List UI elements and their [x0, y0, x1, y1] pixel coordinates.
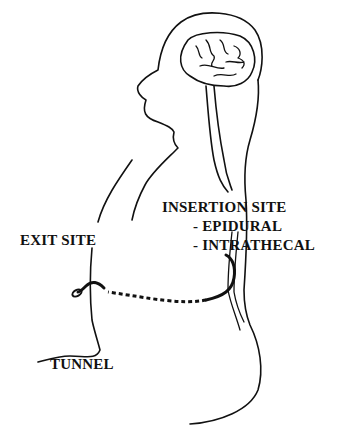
intrathecal-label: - INTRATHECAL: [193, 236, 315, 254]
head-front-outline: [132, 13, 262, 220]
chest-outline: [98, 160, 132, 222]
epidural-label: - EPIDURAL: [193, 217, 282, 235]
catheter-insertion-segment: [206, 255, 235, 300]
catheter-diagram: INSERTION SITE - EPIDURAL - INTRATHECAL …: [0, 0, 359, 431]
exit-site-label: EXIT SITE: [20, 231, 96, 249]
brain-folds: [196, 40, 244, 76]
catheter-tunnel-segment: [108, 292, 206, 302]
brain-outline: [181, 33, 255, 87]
insertion-site-label: INSERTION SITE: [162, 198, 286, 216]
front-torso-outline: [38, 248, 100, 362]
spinal-cord-right: [214, 86, 232, 190]
tunnel-label: TUNNEL: [50, 355, 114, 373]
spinal-cord-left: [206, 86, 228, 192]
